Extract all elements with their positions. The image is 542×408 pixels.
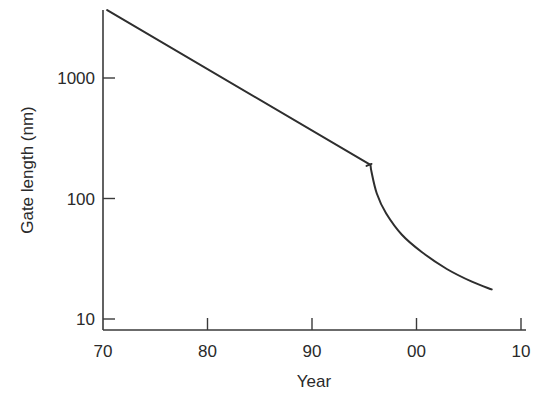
x-tick-label: 10 [512, 342, 531, 361]
gate-length-chart: 7080900010 101001000 Year Gate length (n… [0, 0, 542, 408]
series-group [107, 10, 492, 289]
x-ticks: 7080900010 [94, 318, 531, 361]
y-axis-title: Gate length (nm) [18, 106, 37, 234]
x-tick-label: 90 [303, 342, 322, 361]
x-tick-label: 80 [198, 342, 217, 361]
axes [103, 10, 526, 330]
y-tick-label: 100 [67, 190, 95, 209]
x-axis-title: Year [297, 372, 332, 391]
x-tick-label: 70 [94, 342, 113, 361]
y-ticks: 101001000 [57, 69, 115, 329]
series-line-gate-length-trend [107, 10, 492, 289]
y-tick-label: 1000 [57, 69, 95, 88]
y-tick-label: 10 [76, 310, 95, 329]
x-tick-label: 00 [407, 342, 426, 361]
